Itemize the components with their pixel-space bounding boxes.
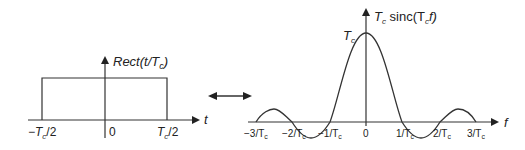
- rect-y-label: Rect(t/Tc): [113, 54, 168, 71]
- tick-neg-tc-half: −Tc/2: [28, 125, 57, 141]
- peak-label: Tc: [343, 28, 355, 45]
- tick-neg3: −3/Tc: [244, 128, 268, 140]
- tick-neg2: −2/Tc: [282, 128, 306, 140]
- tick-pos1: 1/Tc: [396, 128, 414, 140]
- tick-pos2: 2/Tc: [433, 128, 451, 140]
- rect-plot: Rect(t/Tc) t −Tc/2 0 Tc/2: [28, 54, 209, 141]
- tick-zero: 0: [109, 125, 116, 139]
- rect-sinc-fourier-diagram: Rect(t/Tc) t −Tc/2 0 Tc/2 Tc sinc(Tcf) T…: [0, 0, 525, 150]
- tick-zero-f: 0: [363, 128, 369, 139]
- t-axis-label: t: [204, 112, 209, 127]
- sinc-y-label: Tc sinc(Tcf): [374, 9, 437, 26]
- tick-pos-tc-half: Tc/2: [157, 125, 179, 141]
- tick-neg1: −1/Tc: [318, 128, 342, 140]
- tick-pos3: 3/Tc: [467, 128, 485, 140]
- f-axis-label: f: [504, 115, 509, 130]
- sinc-plot: Tc sinc(Tcf) Tc f −3/Tc −2/Tc −1/Tc 0 1/…: [244, 9, 509, 140]
- fourier-pair-arrow: [208, 92, 252, 100]
